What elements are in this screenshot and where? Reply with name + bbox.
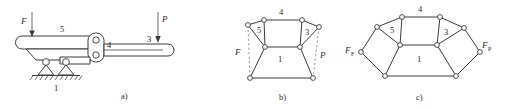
label-force-P-a: P — [161, 14, 168, 24]
panel-b-kinematic-graph: 4 5 3 1 F P b) — [234, 7, 326, 102]
caption-c: c) — [416, 92, 423, 102]
label-force-FF-sub: F — [351, 51, 355, 57]
label-force-FF-c: F F — [344, 45, 355, 57]
engineering-figure: F P 5 4 3 1 a) — [0, 0, 509, 109]
label-force-F-a: F — [20, 16, 27, 26]
label-link-4-c: 4 — [418, 4, 423, 14]
link-5-handle — [16, 36, 97, 60]
label-ground-1-a: 1 — [54, 83, 58, 93]
label-force-P-b: P — [319, 50, 326, 60]
pivot-joints — [38, 59, 74, 75]
force-line-F-b — [248, 25, 250, 78]
label-link-3-b: 3 — [305, 27, 309, 37]
label-force-F-b: F — [234, 47, 241, 57]
panel-a-mechanism: F P 5 4 3 1 a) — [16, 12, 175, 101]
panel-c-force-diagram: 4 5 3 1 F F F P c) — [344, 4, 492, 102]
label-link-5-a: 5 — [60, 24, 64, 34]
label-force-FP-c: F P — [481, 40, 492, 52]
label-link-5-c: 5 — [390, 25, 394, 35]
caption-a: a) — [121, 91, 128, 101]
label-force-FP-main: F — [481, 40, 488, 50]
force-line-P-b — [313, 27, 319, 78]
label-link-3-c: 3 — [444, 27, 448, 37]
label-link-1-b: 1 — [278, 54, 282, 64]
arrowhead-P-a — [155, 36, 160, 43]
label-force-FP-sub: P — [488, 46, 492, 52]
label-link-1-c: 1 — [417, 54, 421, 64]
label-link-5-b: 5 — [257, 25, 261, 35]
ground-hatching — [30, 76, 82, 81]
link-3-jaw — [104, 44, 174, 56]
force-F-arrow-a — [29, 12, 34, 37]
label-link-3-a: 3 — [147, 34, 151, 44]
force-P-arrow-a — [155, 12, 160, 43]
caption-b: b) — [279, 92, 286, 102]
label-force-FF-main: F — [344, 45, 351, 55]
label-link-4-b: 4 — [279, 7, 284, 17]
